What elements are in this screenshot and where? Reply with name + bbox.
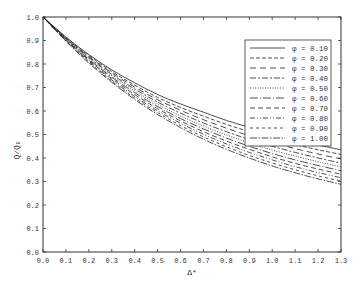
x-tick-label: 0.8 bbox=[220, 257, 233, 265]
y-tick-label: 0.6 bbox=[26, 108, 39, 116]
legend-label: φ = 0.10 bbox=[292, 45, 329, 53]
x-axis-label: Δ* bbox=[187, 268, 197, 277]
y-axis-label: Q/Q₀ bbox=[12, 140, 21, 159]
x-tick-label: 0.4 bbox=[128, 257, 141, 265]
y-tick-label: 0.1 bbox=[26, 225, 39, 233]
x-tick-label: 0.1 bbox=[60, 257, 73, 265]
legend-label: φ = 0.90 bbox=[292, 125, 329, 133]
x-tick-label: 0.0 bbox=[37, 257, 50, 265]
chart: 0.00.10.20.30.40.50.60.70.80.91.01.11.21… bbox=[0, 0, 363, 288]
legend-label: φ = 0.70 bbox=[292, 105, 329, 113]
legend-label: φ = 0.40 bbox=[292, 75, 329, 83]
y-tick-label: 0.7 bbox=[26, 84, 39, 92]
x-tick-label: 1.0 bbox=[266, 257, 279, 265]
legend: φ = 0.10φ = 0.20φ = 0.30φ = 0.40φ = 0.50… bbox=[245, 40, 331, 146]
x-tick-label: 0.7 bbox=[197, 257, 210, 265]
y-tick-label: 0.0 bbox=[26, 249, 39, 257]
y-tick-label: 0.2 bbox=[26, 202, 39, 210]
y-tick-label: 0.8 bbox=[26, 61, 39, 69]
legend-label: φ = 0.60 bbox=[292, 95, 329, 103]
legend-label: φ = 0.20 bbox=[292, 55, 329, 63]
y-tick-label: 0.5 bbox=[26, 131, 39, 139]
x-tick-label: 1.3 bbox=[335, 257, 348, 265]
x-tick-label: 0.3 bbox=[105, 257, 118, 265]
x-tick-label: 0.9 bbox=[243, 257, 256, 265]
legend-label: φ = 0.80 bbox=[292, 115, 329, 123]
y-tick-label: 0.3 bbox=[26, 178, 39, 186]
x-tick-label: 0.2 bbox=[83, 257, 96, 265]
y-tick-label: 1.0 bbox=[26, 14, 39, 22]
legend-label: φ = 1.00 bbox=[292, 135, 329, 143]
x-tick-label: 1.2 bbox=[312, 257, 325, 265]
y-tick-label: 0.9 bbox=[26, 37, 39, 45]
legend-label: φ = 0.50 bbox=[292, 85, 329, 93]
legend-label: φ = 0.30 bbox=[292, 65, 329, 73]
x-tick-label: 1.1 bbox=[289, 257, 302, 265]
x-tick-label: 0.5 bbox=[151, 257, 164, 265]
y-tick-label: 0.4 bbox=[26, 155, 39, 163]
x-tick-label: 0.6 bbox=[174, 257, 187, 265]
